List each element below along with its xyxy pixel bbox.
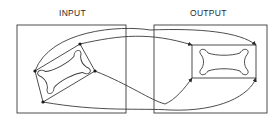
output-frame — [154, 25, 267, 113]
vertex-dot — [33, 69, 36, 72]
output-bone-shape — [200, 49, 248, 74]
mapping-arc-top-right — [80, 36, 192, 45]
vertex-dot — [41, 100, 44, 103]
mapping-arc-top-left — [35, 28, 256, 71]
transformation-diagram — [0, 0, 280, 121]
input-bone-shape — [37, 49, 92, 94]
vertex-dot — [78, 42, 81, 45]
mapping-arc-bottom-right — [95, 71, 192, 104]
input-quadrilateral — [35, 44, 95, 102]
vertex-dot — [93, 69, 96, 72]
